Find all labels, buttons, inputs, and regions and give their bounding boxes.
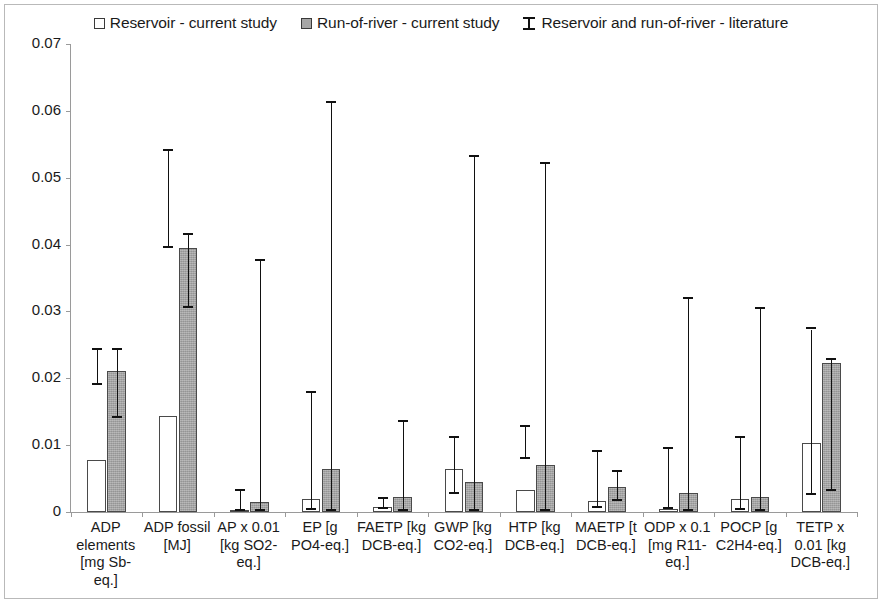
x-axis-labels: ADP elements [mg Sb-eq.]ADP fossil [MJ]A… [70, 519, 856, 599]
x-axis-label: EP [g PO4-eq.] [284, 519, 355, 554]
bar-reservoir[interactable] [659, 509, 678, 512]
error-bar-reservoir [811, 330, 812, 496]
error-bar-runofriver-cap [112, 416, 122, 418]
y-tick-label: 0.05 [32, 168, 61, 185]
x-axis-label: HTP [kg DCB-eq.] [499, 519, 570, 554]
category-separator [214, 512, 215, 517]
error-bar-reservoir-cap [663, 507, 673, 509]
error-bar-runofriver-cap [326, 509, 336, 511]
bar-group [643, 44, 714, 512]
y-tick-label: 0.02 [32, 368, 61, 385]
error-bar-runofriver-cap [612, 499, 622, 501]
error-bar-runofriver-cap [183, 233, 193, 235]
error-bar-reservoir-cap [735, 508, 745, 510]
error-bar-runofriver [331, 103, 332, 511]
error-bar-runofriver-cap [398, 420, 408, 422]
category-separator [285, 512, 286, 517]
error-bar-reservoir-cap [806, 493, 816, 495]
error-bar-runofriver-cap [255, 259, 265, 261]
error-bar-reservoir [740, 438, 741, 510]
error-bar-runofriver [688, 299, 689, 511]
plot-wrapper: 0.070.060.050.040.030.020.010 ADP elemen… [0, 0, 882, 603]
error-bar-runofriver [474, 157, 475, 511]
y-axis-tick: 0 [71, 512, 857, 513]
bar-group [357, 44, 428, 512]
error-bar-runofriver-cap [398, 509, 408, 511]
category-separator [857, 512, 858, 517]
error-bar-reservoir-cap [592, 450, 602, 452]
error-bar-reservoir-cap [663, 447, 673, 449]
error-bar-reservoir [597, 452, 598, 508]
error-bar-reservoir-cap [449, 436, 459, 438]
error-bar-reservoir-cap [378, 497, 388, 499]
error-bar-runofriver-cap [540, 162, 550, 164]
error-bar-runofriver-cap [540, 509, 550, 511]
bar-reservoir[interactable] [516, 490, 535, 512]
error-bar-reservoir-cap [806, 327, 816, 329]
bar-group [142, 44, 213, 512]
category-separator [428, 512, 429, 517]
bar-group [571, 44, 642, 512]
category-separator [142, 512, 143, 517]
x-axis-label: FAETP [kg DCB-eq.] [356, 519, 427, 554]
error-bar-runofriver-cap [183, 306, 193, 308]
category-separator [714, 512, 715, 517]
x-axis-label: ADP elements [mg Sb-eq.] [70, 519, 141, 589]
error-bar-runofriver-cap [255, 509, 265, 511]
bar-group [71, 44, 142, 512]
category-separator [571, 512, 572, 517]
bar-group [214, 44, 285, 512]
category-separator [643, 512, 644, 517]
error-bar-reservoir [525, 427, 526, 459]
error-bar-runofriver-cap [612, 470, 622, 472]
error-bar-runofriver [260, 261, 261, 511]
plot-area: 0.070.060.050.040.030.020.010 [70, 44, 857, 513]
error-bar-runofriver [831, 360, 832, 490]
x-axis-label: ODP x 0.1 [mg R11-eq.] [642, 519, 713, 572]
error-bar-runofriver-cap [326, 101, 336, 103]
y-tick-label: 0.03 [32, 301, 61, 318]
error-bar-runofriver [117, 350, 118, 418]
error-bar-reservoir [311, 393, 312, 510]
x-axis-label: MAETP [t DCB-eq.] [570, 519, 641, 554]
chart-figure: Reservoir - current study Run-of-river -… [0, 0, 882, 603]
category-separator [786, 512, 787, 517]
error-bar-reservoir [454, 438, 455, 494]
error-bar-reservoir-cap [235, 489, 245, 491]
category-separator [71, 512, 72, 517]
bar-reservoir[interactable] [87, 460, 106, 512]
error-bar-reservoir [168, 151, 169, 248]
error-bar-runofriver [403, 422, 404, 511]
x-axis-label: TETP x 0.01 [kg DCB-eq.] [785, 519, 856, 572]
bar-group [786, 44, 857, 512]
error-bar-reservoir [668, 449, 669, 510]
error-bar-reservoir-cap [92, 348, 102, 350]
error-bar-reservoir-cap [306, 508, 316, 510]
error-bar-runofriver [545, 164, 546, 512]
error-bar-runofriver [760, 309, 761, 510]
error-bar-runofriver-cap [755, 509, 765, 511]
error-bar-reservoir-cap [520, 457, 530, 459]
bar-group [285, 44, 356, 512]
y-tick-label: 0 [53, 502, 61, 519]
error-bar-runofriver [188, 235, 189, 309]
bar-reservoir[interactable] [159, 416, 178, 512]
x-axis-label: POCP [g C2H4-eq.] [713, 519, 784, 554]
bar-group [714, 44, 785, 512]
error-bar-reservoir-cap [520, 425, 530, 427]
error-bar-runofriver-cap [112, 348, 122, 350]
y-tick-label: 0.04 [32, 235, 61, 252]
y-tick-label: 0.06 [32, 101, 61, 118]
error-bar-reservoir-cap [592, 506, 602, 508]
error-bar-reservoir-cap [163, 246, 173, 248]
bar-group [500, 44, 571, 512]
error-bar-reservoir-cap [163, 149, 173, 151]
x-axis-label: GWP [kg CO2-eq.] [427, 519, 498, 554]
error-bar-reservoir-cap [306, 391, 316, 393]
error-bar-runofriver [617, 472, 618, 501]
error-bar-reservoir-cap [449, 492, 459, 494]
error-bar-runofriver-cap [683, 509, 693, 511]
x-axis-label: AP x 0.01 [kg SO2-eq.] [213, 519, 284, 572]
bar-group [428, 44, 499, 512]
error-bar-reservoir-cap [735, 436, 745, 438]
